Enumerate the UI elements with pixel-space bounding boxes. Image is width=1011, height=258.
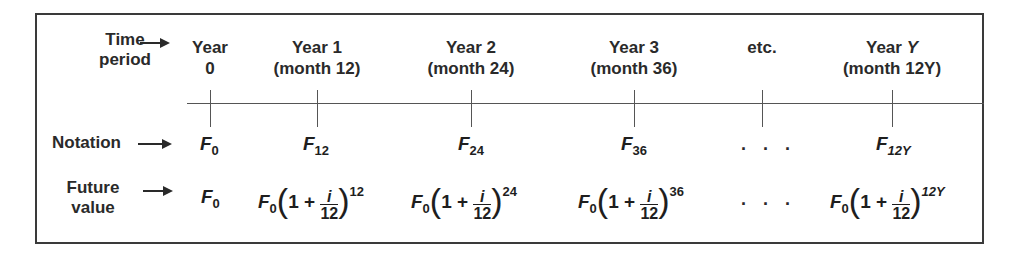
- fv-y-lparen: (: [849, 181, 860, 219]
- header-year-y-var: Y: [907, 38, 918, 57]
- fv-1-fraction: i12: [320, 189, 338, 221]
- fv-3-den: 12: [640, 204, 658, 221]
- fv-1-base: F: [258, 191, 270, 212]
- fv-3-one-plus: 1 +: [608, 191, 635, 212]
- notation-f0-sub: 0: [212, 143, 219, 158]
- header-year-0-title: Year: [170, 37, 250, 58]
- header-year-3-title: Year 3: [574, 37, 694, 58]
- header-year-y: Year Y (month 12Y): [822, 37, 962, 79]
- fv-1-den: 12: [320, 204, 338, 221]
- notation-f12y-sub: 12Y: [888, 143, 911, 158]
- notation-f0-base: F: [200, 133, 212, 154]
- fv-1-exp: 12: [350, 184, 364, 199]
- fv-3-lparen: (: [597, 181, 608, 219]
- fv-3-num: i: [640, 189, 658, 204]
- future-value-arrow-icon: [143, 190, 171, 192]
- fv-1-rparen: ): [338, 181, 349, 219]
- fv-1-num: i: [320, 189, 338, 204]
- fv-year-0: F0: [201, 186, 220, 208]
- notation-f12-sub: 12: [315, 143, 329, 158]
- time-period-label: Time period: [75, 30, 175, 70]
- notation-f12y-base: F: [876, 133, 888, 154]
- fv-year-3: F0(1 + i12)36: [578, 186, 684, 219]
- tick-year-y: [892, 90, 893, 127]
- header-year-1: Year 1 (month 12): [257, 37, 377, 79]
- fv-year-1: F0(1 + i12)12: [258, 186, 364, 219]
- notation-arrow-icon: [138, 143, 170, 145]
- fv-y-one-plus: 1 +: [860, 191, 887, 212]
- fv-y-den: 12: [892, 204, 910, 221]
- fv-3-fraction: i12: [640, 189, 658, 221]
- notation-f12: F12: [303, 133, 329, 155]
- header-year-1-sub: (month 12): [257, 58, 377, 79]
- future-label-line1: Future: [53, 178, 133, 198]
- fv-1-sub: 0: [270, 201, 277, 216]
- tick-etc: [762, 90, 763, 127]
- time-period-arrow-icon: [140, 42, 168, 44]
- notation-label: Notation: [52, 133, 152, 153]
- notation-ellipsis: . . .: [741, 134, 796, 155]
- header-etc: etc.: [722, 37, 802, 58]
- notation-f12y: F12Y: [876, 133, 911, 155]
- fv-y-rparen: ): [910, 181, 921, 219]
- header-year-3: Year 3 (month 36): [574, 37, 694, 79]
- tick-year-0: [210, 90, 211, 127]
- notation-f24-sub: 24: [470, 143, 484, 158]
- fv-y-num: i: [892, 189, 910, 204]
- fv-y-fraction: i12: [892, 189, 910, 221]
- header-year-2: Year 2 (month 24): [411, 37, 531, 79]
- tick-year-3: [634, 90, 635, 127]
- notation-f24: F24: [458, 133, 484, 155]
- tick-year-2: [471, 90, 472, 127]
- fv-1-lparen: (: [277, 181, 288, 219]
- fv-y-exp: 12Y: [922, 184, 945, 199]
- time-label-line2: period: [75, 50, 175, 70]
- fv-2-den: 12: [473, 204, 491, 221]
- header-year-3-sub: (month 36): [574, 58, 694, 79]
- fv-3-base: F: [578, 191, 590, 212]
- header-year-1-title: Year 1: [257, 37, 377, 58]
- fv-y-base: F: [830, 191, 842, 212]
- fv-ellipsis: . . .: [741, 189, 796, 210]
- fv-0-sub: 0: [213, 196, 220, 211]
- notation-f36-base: F: [621, 133, 633, 154]
- fv-2-fraction: i12: [473, 189, 491, 221]
- header-year-0: Year 0: [170, 37, 250, 79]
- fv-2-exp: 24: [503, 184, 517, 199]
- fv-3-exp: 36: [670, 184, 684, 199]
- header-year-y-prefix: Year: [866, 38, 907, 57]
- header-etc-title: etc.: [722, 37, 802, 58]
- fv-3-sub: 0: [590, 201, 597, 216]
- fv-y-sub: 0: [842, 201, 849, 216]
- fv-year-2: F0(1 + i12)24: [411, 186, 517, 219]
- fv-3-rparen: ): [658, 181, 669, 219]
- fv-2-num: i: [473, 189, 491, 204]
- future-value-label: Future value: [53, 178, 133, 218]
- fv-2-sub: 0: [423, 201, 430, 216]
- fv-2-rparen: ): [491, 181, 502, 219]
- tick-year-1: [317, 90, 318, 127]
- notation-f36-sub: 36: [633, 143, 647, 158]
- fv-2-lparen: (: [430, 181, 441, 219]
- future-label-line2: value: [53, 198, 133, 218]
- notation-f0: F0: [200, 133, 219, 155]
- fv-2-one-plus: 1 +: [441, 191, 468, 212]
- fv-1-one-plus: 1 +: [288, 191, 315, 212]
- fv-0-base: F: [201, 186, 213, 207]
- notation-f36: F36: [621, 133, 647, 155]
- header-year-0-sub: 0: [170, 58, 250, 79]
- header-year-2-sub: (month 24): [411, 58, 531, 79]
- fv-2-base: F: [411, 191, 423, 212]
- notation-f24-base: F: [458, 133, 470, 154]
- notation-f12-base: F: [303, 133, 315, 154]
- fv-year-y: F0(1 + i12)12Y: [830, 186, 945, 219]
- timeline-axis: [187, 103, 984, 104]
- header-year-y-sub: (month 12Y): [822, 58, 962, 79]
- header-year-y-title: Year Y: [822, 37, 962, 58]
- header-year-2-title: Year 2: [411, 37, 531, 58]
